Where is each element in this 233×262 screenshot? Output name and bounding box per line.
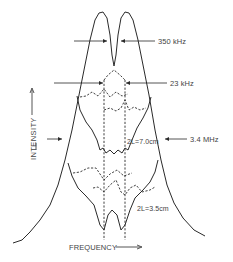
inner-dashed-peak — [104, 70, 125, 80]
outer-envelope-curve — [13, 12, 205, 243]
diagram-canvas: 350 kHz 23 kHz 3.4 MHz 2L=7.0cm 2L=3.5cm… — [0, 0, 233, 262]
upper-cavity-curve — [77, 96, 151, 154]
cavity-upper-label: 2L=7.0cm — [127, 138, 159, 145]
lower-cavity-curve — [68, 160, 158, 230]
upper-dashed-curve-2 — [104, 100, 146, 111]
x-axis-label: FREQUENCY — [69, 243, 117, 252]
y-axis-label: INTENSITY — [29, 117, 38, 160]
outer-split-label: 350 kHz — [158, 37, 186, 46]
outer-width-label: 3.4 MHz — [190, 135, 219, 144]
inner-split-label: 23 kHz — [170, 79, 194, 88]
lower-dashed-curve-1 — [73, 168, 132, 180]
cavity-lower-label: 2L=3.5cm — [137, 205, 169, 212]
